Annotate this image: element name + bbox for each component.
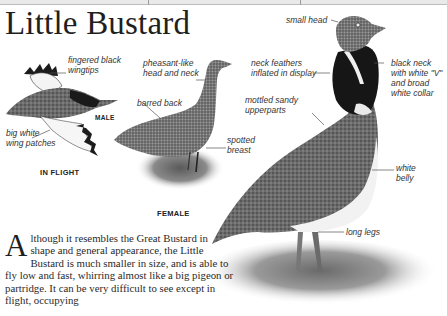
label-white-belly: white belly xyxy=(396,163,416,183)
label-mottled-upperparts: mottled sandy upperparts xyxy=(245,95,298,115)
caption-in-flight: IN FLIGHT xyxy=(40,168,79,177)
body-paragraph: A lthough it resembles the Great Bustard… xyxy=(5,232,235,306)
label-white-wing-patches: big white wing patches xyxy=(6,128,56,148)
label-black-neck: black neck with white "V" and broad whit… xyxy=(391,58,442,98)
label-long-legs: long legs xyxy=(346,227,380,237)
body-text: lthough it resembles the Great Bustard i… xyxy=(5,232,235,306)
label-pheasant-like-head: pheasant-like head and neck xyxy=(143,58,199,78)
label-male: MALE xyxy=(95,114,115,121)
label-barred-back: barred back xyxy=(137,98,182,108)
drop-cap: A xyxy=(5,233,27,259)
female-bird xyxy=(114,60,232,190)
label-small-head: small head xyxy=(286,15,327,25)
caption-female: FEMALE xyxy=(157,209,190,218)
label-spotted-breast: spotted breast xyxy=(227,135,255,155)
label-fingered-wingtips: fingered black wingtips xyxy=(68,55,121,75)
label-neck-feathers: neck feathers inflated in display xyxy=(251,58,316,78)
